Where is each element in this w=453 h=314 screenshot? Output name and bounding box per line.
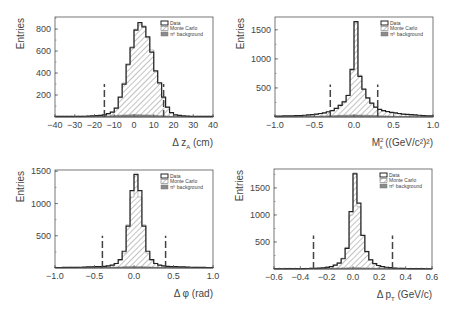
- x-axis-label: Δ zA (cm): [172, 137, 213, 150]
- x-tick-label: 40: [208, 120, 218, 130]
- y-tick-label: 1500: [251, 25, 271, 35]
- x-tick-label: −20: [87, 120, 102, 130]
- y-axis-label: Entries: [15, 171, 26, 202]
- y-tick-label: 1000: [250, 210, 270, 220]
- x-tick-label: 30: [188, 120, 198, 130]
- legend: DataMonte Carloπ⁰ background: [161, 20, 203, 37]
- x-tick-label: 0: [131, 120, 136, 130]
- y-tick-label: 1500: [250, 183, 270, 193]
- y-tick-label: 500: [256, 83, 271, 93]
- y-tick-label: 1000: [251, 54, 271, 64]
- legend-swatch: [161, 32, 168, 36]
- figure-canvas: −40−30−20−10010203040200400600800Entries…: [0, 0, 453, 314]
- y-tick-label: 1000: [31, 199, 51, 209]
- x-tick-label: 0.5: [167, 271, 180, 281]
- y-tick-label: 200: [36, 90, 51, 100]
- y-axis-label: Entries: [234, 170, 245, 201]
- x-axis-label: Δ φ (rad): [174, 288, 213, 299]
- legend-swatch: [381, 21, 388, 25]
- legend-swatch: [380, 179, 387, 183]
- y-axis-label: Entries: [235, 18, 246, 49]
- x-tick-label: 0.2: [373, 272, 386, 282]
- x-tick-label: −0.2: [318, 272, 336, 282]
- x-tick-label: 20: [168, 120, 178, 130]
- x-tick-label: −0.5: [86, 271, 104, 281]
- x-tick-label: −0.6: [265, 272, 283, 282]
- x-tick-label: 1.0: [427, 120, 440, 130]
- x-tick-label: 0.0: [347, 272, 360, 282]
- y-tick-label: 500: [255, 237, 270, 247]
- legend-swatch: [381, 32, 388, 36]
- y-axis-label: Entries: [15, 18, 26, 49]
- x-tick-label: −40: [47, 120, 62, 130]
- panel-delta-phi: −1.0−0.50.00.51.050010001500EntriesΔ φ (…: [15, 166, 219, 299]
- x-tick-label: 0.0: [128, 271, 141, 281]
- y-tick-label: 600: [36, 46, 51, 56]
- legend: DataMonte Carloπ⁰ background: [161, 173, 203, 190]
- x-tick-label: −0.5: [306, 120, 324, 130]
- x-tick-label: −1.0: [46, 271, 64, 281]
- legend-swatch: [380, 173, 387, 177]
- figure-2x2-histograms: −40−30−20−10010203040200400600800Entries…: [0, 0, 453, 314]
- legend-label: π⁰ background: [389, 183, 422, 189]
- legend: DataMonte Carloπ⁰ background: [381, 20, 423, 37]
- x-tick-label: 10: [149, 120, 159, 130]
- panel-delta-z: −40−30−20−10010203040200400600800Entries…: [15, 17, 218, 150]
- y-tick-label: 400: [36, 68, 51, 78]
- legend-swatch: [161, 174, 168, 178]
- x-tick-label: −10: [107, 120, 122, 130]
- x-tick-label: 1.0: [207, 271, 220, 281]
- panel-delta-pt: −0.6−0.4−0.20.00.20.40.650010001500Entri…: [234, 169, 438, 302]
- legend: DataMonte Carloπ⁰ background: [380, 172, 422, 189]
- y-tick-label: 800: [36, 24, 51, 34]
- legend-label: π⁰ background: [170, 184, 203, 190]
- x-tick-label: 0.4: [399, 272, 412, 282]
- x-tick-label: −30: [67, 120, 82, 130]
- legend-label: π⁰ background: [390, 31, 423, 37]
- y-tick-label: 500: [36, 231, 51, 241]
- legend-swatch: [161, 180, 168, 184]
- legend-label: π⁰ background: [170, 31, 203, 37]
- x-tick-label: 0.6: [426, 272, 439, 282]
- legend-swatch: [161, 21, 168, 25]
- legend-swatch: [161, 27, 168, 31]
- x-tick-label: −1.0: [266, 120, 284, 130]
- x-axis-label: Δ pT (GeV/c): [377, 289, 432, 302]
- y-tick-label: 1500: [31, 166, 51, 176]
- x-tick-label: 0.5: [387, 120, 400, 130]
- x-tick-label: 0.0: [348, 120, 361, 130]
- x-axis-label: M2x ((GeV/c²)²): [372, 137, 433, 150]
- legend-swatch: [380, 184, 387, 188]
- panel-missing-mass-squared: −1.0−0.50.00.51.050010001500EntriesM2x (…: [235, 17, 439, 150]
- legend-swatch: [161, 185, 168, 189]
- x-tick-label: −0.4: [291, 272, 309, 282]
- legend-swatch: [381, 27, 388, 31]
